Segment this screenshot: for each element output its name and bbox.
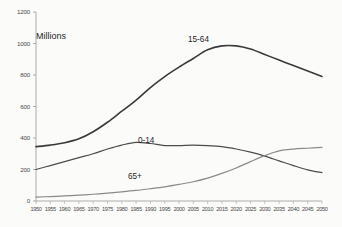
y-tick-label: 800: [8, 71, 30, 78]
y-tick-label: 400: [8, 134, 30, 141]
series-line-15-64: [36, 45, 322, 146]
y-tick-label: 1000: [8, 40, 30, 47]
y-tick-label: 200: [8, 166, 30, 173]
series-lines: [36, 45, 322, 197]
series-line-65-: [36, 147, 322, 197]
population-age-structure-chart: Millions 020040060080010001200 195019551…: [0, 0, 342, 227]
series-label-65-plus: 65+: [128, 172, 142, 181]
series-label-0-14: 0-14: [138, 136, 154, 145]
y-tick-label: 600: [8, 103, 30, 110]
y-tick-label: 1200: [8, 8, 30, 15]
series-line-0-14: [36, 142, 322, 172]
axis-lines: [36, 12, 322, 201]
y-tick-label: 0: [8, 197, 30, 204]
x-tick-label: 2050: [309, 206, 335, 212]
plot-area: [0, 0, 342, 227]
series-label-15-64: 15-64: [188, 35, 209, 44]
y-axis-ticks: [33, 12, 36, 201]
x-axis-ticks: [36, 201, 322, 204]
